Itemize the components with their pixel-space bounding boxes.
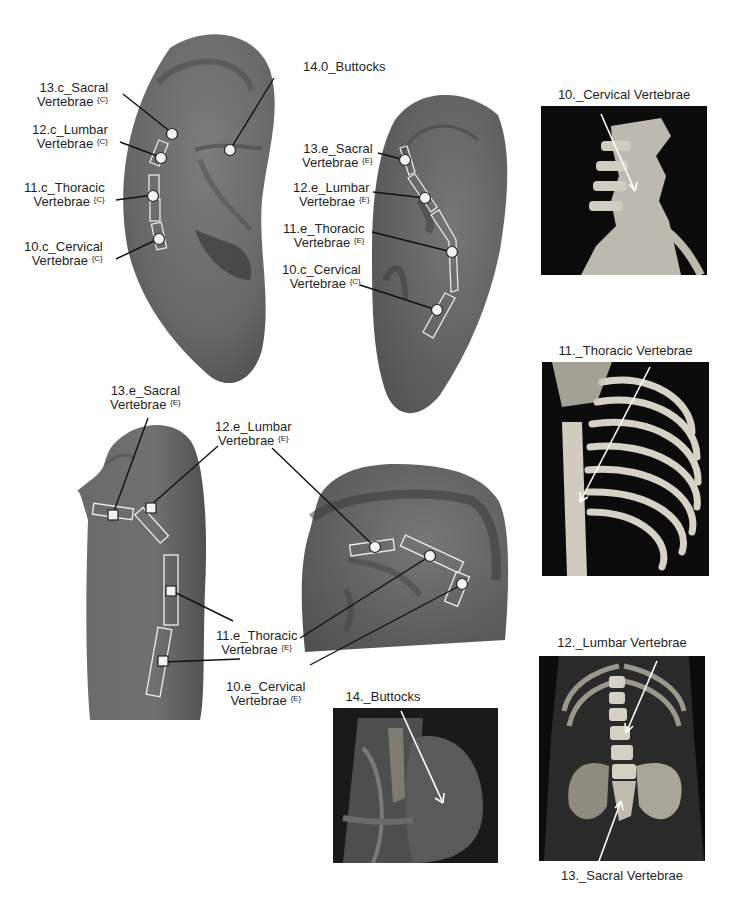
label-13e-sacral-bottom: 13.e_Sacral Vertebrae {E}	[110, 384, 181, 412]
photo-thoracic-vertebrae	[542, 362, 709, 576]
photo-lumbar-sacral-vertebrae	[539, 656, 705, 861]
marker-13c	[167, 129, 178, 140]
ear-top-left	[123, 34, 275, 383]
photo-buttocks	[333, 708, 498, 863]
label-12e-lumbar-top: 12.e_Lumbar Vertebrae {E}	[293, 181, 370, 209]
label-11e-thoracic-top: 11.e_Thoracic Vertebrae {E}	[283, 222, 364, 250]
caption-lumbar: 12._Lumbar Vertebrae	[539, 635, 705, 650]
marker-11c	[148, 191, 159, 202]
ear-acupoint-diagram: 13.c_Sacral Vertebrae {C} 12.c_Lumbar Ve…	[0, 0, 731, 901]
marker-11e-bottom	[425, 551, 436, 562]
label-14-0-buttocks: 14.0_Buttocks	[303, 60, 385, 74]
marker-12c	[156, 153, 167, 164]
caption-buttocks: 14._Buttocks	[333, 689, 433, 704]
marker-12e-top	[420, 193, 431, 204]
marker-12e-sq	[146, 503, 156, 513]
marker-10c	[154, 234, 165, 245]
label-12e-lumbar-bottom: 12.e_Lumbar Vertebrae {E}	[215, 420, 292, 448]
ear-top-right	[372, 95, 507, 413]
caption-thoracic: 11._Thoracic Vertebrae	[542, 343, 709, 358]
label-10e-cervical-bottom: 10.e_Cervical Vertebrae {E}	[226, 680, 306, 708]
marker-11e-sq	[166, 586, 176, 596]
caption-sacral: 13._Sacral Vertebrae	[539, 868, 705, 883]
label-12c-lumbar: 12.c_Lumbar Vertebrae {C}	[32, 123, 108, 151]
ear-bottom-center	[302, 464, 508, 652]
marker-11e-top	[447, 247, 458, 258]
label-13c-sacral: 13.c_Sacral Vertebrae {C}	[37, 81, 108, 109]
marker-13e-top	[400, 155, 411, 166]
label-11e-thoracic-bottom: 11.e_Thoracic Vertebrae {E}	[216, 629, 297, 657]
photo-cervical-vertebrae	[541, 106, 707, 275]
marker-10e-bottom	[457, 579, 468, 590]
marker-13e-sq	[108, 510, 118, 520]
marker-14-0	[225, 145, 236, 156]
label-10c-cervical: 10.c_Cervical Vertebrae {C}	[24, 240, 103, 268]
marker-12e-bottom	[370, 542, 381, 553]
label-11c-thoracic: 11.c_Thoracic Vertebrae {C}	[24, 181, 105, 209]
marker-10c-top	[432, 305, 443, 316]
label-13e-sacral-top: 13.e_Sacral Vertebrae {E}	[302, 142, 373, 170]
marker-10e-sq	[158, 656, 168, 666]
label-10c-cervical-top: 10.c_Cervical Vertebrae {C}	[282, 263, 361, 291]
caption-cervical: 10._Cervical Vertebrae	[541, 87, 707, 102]
ear-bottom-left	[77, 425, 206, 720]
